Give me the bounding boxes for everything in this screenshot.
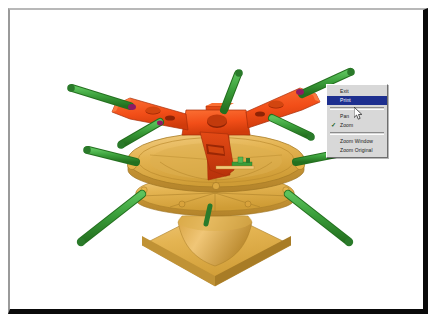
leg-cylinder-upper-center bbox=[224, 69, 243, 110]
pedestal-base bbox=[142, 208, 291, 286]
menu-item-print[interactable]: Print bbox=[327, 96, 387, 105]
menu-separator-1 bbox=[330, 107, 384, 110]
three-d-model[interactable] bbox=[10, 10, 423, 309]
menu-item-zoom-original[interactable]: Zoom Original bbox=[327, 146, 387, 155]
checkmark-icon: ✓ bbox=[331, 122, 337, 129]
menu-item-zoom-original-label: Zoom Original bbox=[340, 147, 373, 153]
leg-cylinder-upper-left bbox=[67, 84, 130, 106]
model-canvas[interactable]: Exit Print Pan ✓ Zoom Zoom Window Zoom O… bbox=[10, 10, 423, 309]
application-window: Exit Print Pan ✓ Zoom Zoom Window Zoom O… bbox=[0, 0, 436, 324]
menu-item-exit-label: Exit bbox=[340, 88, 349, 94]
menu-item-print-label: Print bbox=[340, 97, 351, 103]
leg-cylinder-mid-left bbox=[83, 146, 136, 162]
leg-cylinder-right-mount bbox=[272, 118, 315, 141]
context-menu[interactable]: Exit Print Pan ✓ Zoom Zoom Window Zoom O… bbox=[326, 84, 388, 158]
menu-item-zoom-window-label: Zoom Window bbox=[340, 138, 373, 144]
menu-item-zoom[interactable]: ✓ Zoom bbox=[327, 121, 387, 130]
model-svg bbox=[10, 10, 423, 309]
menu-item-pan-label: Pan bbox=[340, 113, 349, 119]
leg-cylinder-lower-left bbox=[77, 194, 142, 246]
menu-item-exit[interactable]: Exit bbox=[327, 87, 387, 96]
menu-item-pan[interactable]: Pan bbox=[327, 112, 387, 121]
menu-item-zoom-window[interactable]: Zoom Window bbox=[327, 137, 387, 146]
leg-cylinder-lower-right bbox=[288, 194, 353, 246]
menu-separator-2 bbox=[330, 132, 384, 135]
menu-item-zoom-label: Zoom bbox=[340, 122, 353, 128]
